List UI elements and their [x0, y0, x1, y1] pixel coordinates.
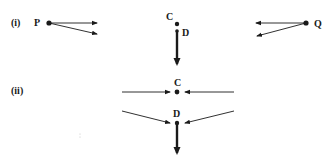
point-d-label-ii: D	[173, 108, 180, 119]
q-arrow-slanted	[257, 23, 306, 36]
d-arrow-right	[185, 111, 234, 123]
part-ii: (ii) C D	[11, 77, 234, 153]
point-c-label-ii: C	[174, 77, 181, 88]
force-diagram: (i) P C D Q (ii) C D	[0, 0, 334, 167]
point-c-label-i: C	[166, 11, 173, 22]
scan-speck	[80, 137, 81, 138]
part-ii-label: (ii)	[11, 85, 23, 97]
d-arrow-left	[122, 111, 170, 123]
point-q-label: Q	[314, 18, 322, 29]
scan-speck	[80, 134, 81, 135]
point-c-dot-i	[175, 22, 179, 26]
point-d-label-i: D	[182, 27, 189, 38]
point-p-label: P	[34, 17, 40, 28]
p-arrow-slanted	[49, 23, 97, 34]
part-i-label: (i)	[11, 17, 20, 29]
part-i: (i) P C D Q	[11, 11, 322, 64]
point-c-dot-ii	[175, 90, 180, 95]
